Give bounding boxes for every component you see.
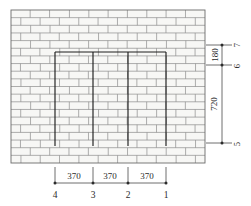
- hdim-label-2: 370: [103, 171, 117, 181]
- marker-label-7: 7: [232, 43, 242, 47]
- vertical-marker-labels: 7 6 5: [232, 43, 242, 146]
- vdim-label-180: 180: [210, 48, 220, 62]
- station-label-3: 3: [91, 190, 96, 200]
- brick-pattern: [11, 10, 205, 163]
- station-label-1: 1: [164, 190, 169, 200]
- station-labels: 4 3 2 1: [53, 190, 169, 200]
- hdim-label-1: 370: [67, 171, 81, 181]
- vertical-dimension-chain: 180 720: [206, 44, 232, 145]
- horizontal-dimension-chain: 370 370 370: [54, 167, 168, 185]
- hdim-label-3: 370: [140, 171, 154, 181]
- station-label-4: 4: [53, 190, 58, 200]
- marker-label-6: 6: [232, 64, 242, 68]
- marker-label-5: 5: [232, 142, 242, 146]
- wall-elevation-figure: 370 370 370 4 3 2 1 180 720: [0, 0, 251, 206]
- vdim-label-720: 720: [209, 97, 219, 111]
- station-label-2: 2: [126, 190, 131, 200]
